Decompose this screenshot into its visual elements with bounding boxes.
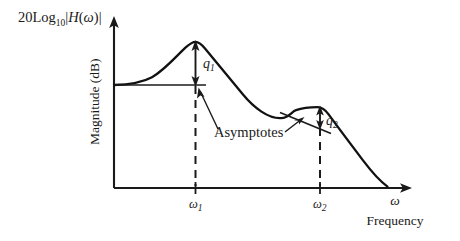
magnitude-response-curve [114,42,388,187]
omega2-subscript: 2 [322,203,327,213]
omega1-base: ω [189,197,198,211]
figure-canvas: 20Log10|H(ω)| Magnitude (dB) ω Frequency… [0,0,460,241]
q2-subscript: 2 [333,120,338,130]
title-prefix: 20Log [18,9,56,25]
asymptotes-label: Asymptotes [214,124,284,140]
x-axis-label: Frequency [367,213,424,228]
plot-title: 20Log10|H(ω)| [18,9,102,28]
title-omega-symbol: ω [84,9,94,25]
q2-base: q [326,113,333,128]
q1-measure-arrow [192,40,200,87]
y-axis-label: Magnitude (dB) [87,58,102,145]
q1-base: q [203,56,210,71]
omega1-subscript: 1 [198,203,203,213]
title-bar-close: | [99,9,102,25]
x-tick-label-omega2: ω2 [313,197,327,213]
q2-label: q2 [326,113,338,130]
title-subscript: 10 [56,18,66,28]
q1-subscript: 1 [210,63,215,73]
asymptotes-leader-right-shaft [285,120,301,132]
omega2-base: ω [313,197,322,211]
x-axis-omega-symbol: ω [390,193,400,208]
bode-magnitude-diagram: 20Log10|H(ω)| Magnitude (dB) ω Frequency… [0,0,460,241]
x-tick-label-omega1: ω1 [189,197,203,213]
